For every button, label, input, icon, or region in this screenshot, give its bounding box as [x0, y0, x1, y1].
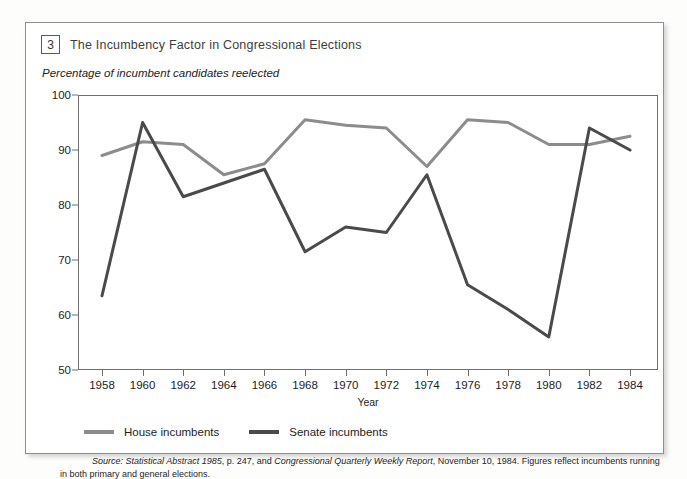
x-tick-label: 1966	[252, 379, 278, 391]
source-italic-one: Statistical Abstract 1985	[126, 456, 222, 466]
y-tick-label: 70	[58, 254, 71, 266]
x-tick-mark	[183, 370, 184, 376]
x-tick-mark	[264, 370, 265, 376]
x-tick-label: 1978	[495, 379, 521, 391]
figure-header: 3 The Incumbency Factor in Congressional…	[41, 35, 362, 54]
figure-page: 3 The Incumbency Factor in Congressional…	[0, 0, 687, 479]
y-tick-label: 60	[58, 309, 71, 321]
source-mid: , p. 247, and	[222, 456, 275, 466]
x-tick-mark	[630, 370, 631, 376]
legend-swatch-senate	[249, 430, 279, 434]
y-tick-label: 50	[58, 364, 71, 376]
x-tick-mark	[305, 370, 306, 376]
y-tick-label: 80	[58, 199, 71, 211]
x-tick-mark	[427, 370, 428, 376]
x-tick-mark	[346, 370, 347, 376]
x-tick-mark	[468, 370, 469, 376]
x-tick-label: 1976	[455, 379, 481, 391]
chart-legend: House incumbents Senate incumbents	[84, 426, 388, 438]
x-tick-label: 1960	[130, 379, 156, 391]
chart-area: 5060708090100195819601962196419661968197…	[78, 95, 658, 370]
x-tick-label: 1972	[374, 379, 400, 391]
x-tick-label: 1958	[89, 379, 115, 391]
legend-swatch-house	[84, 430, 114, 434]
y-tick-label: 90	[58, 144, 71, 156]
x-tick-label: 1980	[536, 379, 562, 391]
figure-container: 3 The Incumbency Factor in Congressional…	[25, 22, 664, 454]
figure-subtitle: Percentage of incumbent candidates reele…	[42, 67, 279, 79]
y-tick-label: 100	[52, 89, 71, 101]
x-axis-label: Year	[357, 396, 378, 408]
figure-number-badge: 3	[41, 35, 60, 54]
figure-title: The Incumbency Factor in Congressional E…	[70, 38, 362, 52]
x-tick-mark	[143, 370, 144, 376]
x-tick-mark	[549, 370, 550, 376]
x-tick-mark	[386, 370, 387, 376]
x-tick-mark	[102, 370, 103, 376]
legend-item-senate: Senate incumbents	[249, 426, 387, 438]
x-tick-label: 1974	[414, 379, 440, 391]
legend-label-house: House incumbents	[124, 426, 219, 438]
x-tick-label: 1970	[333, 379, 359, 391]
chart-lines	[78, 95, 658, 370]
series-line-house	[102, 120, 630, 175]
legend-label-senate: Senate incumbents	[289, 426, 387, 438]
source-italic-two: Congressional Quarterly Weekly Report	[274, 456, 432, 466]
x-tick-label: 1964	[211, 379, 237, 391]
x-tick-mark	[224, 370, 225, 376]
source-lead: Source:	[92, 456, 123, 466]
x-tick-label: 1962	[170, 379, 196, 391]
x-tick-mark	[508, 370, 509, 376]
x-tick-label: 1984	[617, 379, 643, 391]
source-note: Source: Statistical Abstract 1985, p. 24…	[60, 455, 660, 479]
x-tick-mark	[589, 370, 590, 376]
series-line-senate	[102, 123, 630, 338]
x-tick-label: 1982	[577, 379, 603, 391]
x-tick-label: 1968	[292, 379, 318, 391]
source-line-two: primary and general elections.	[90, 469, 211, 479]
legend-item-house: House incumbents	[84, 426, 219, 438]
